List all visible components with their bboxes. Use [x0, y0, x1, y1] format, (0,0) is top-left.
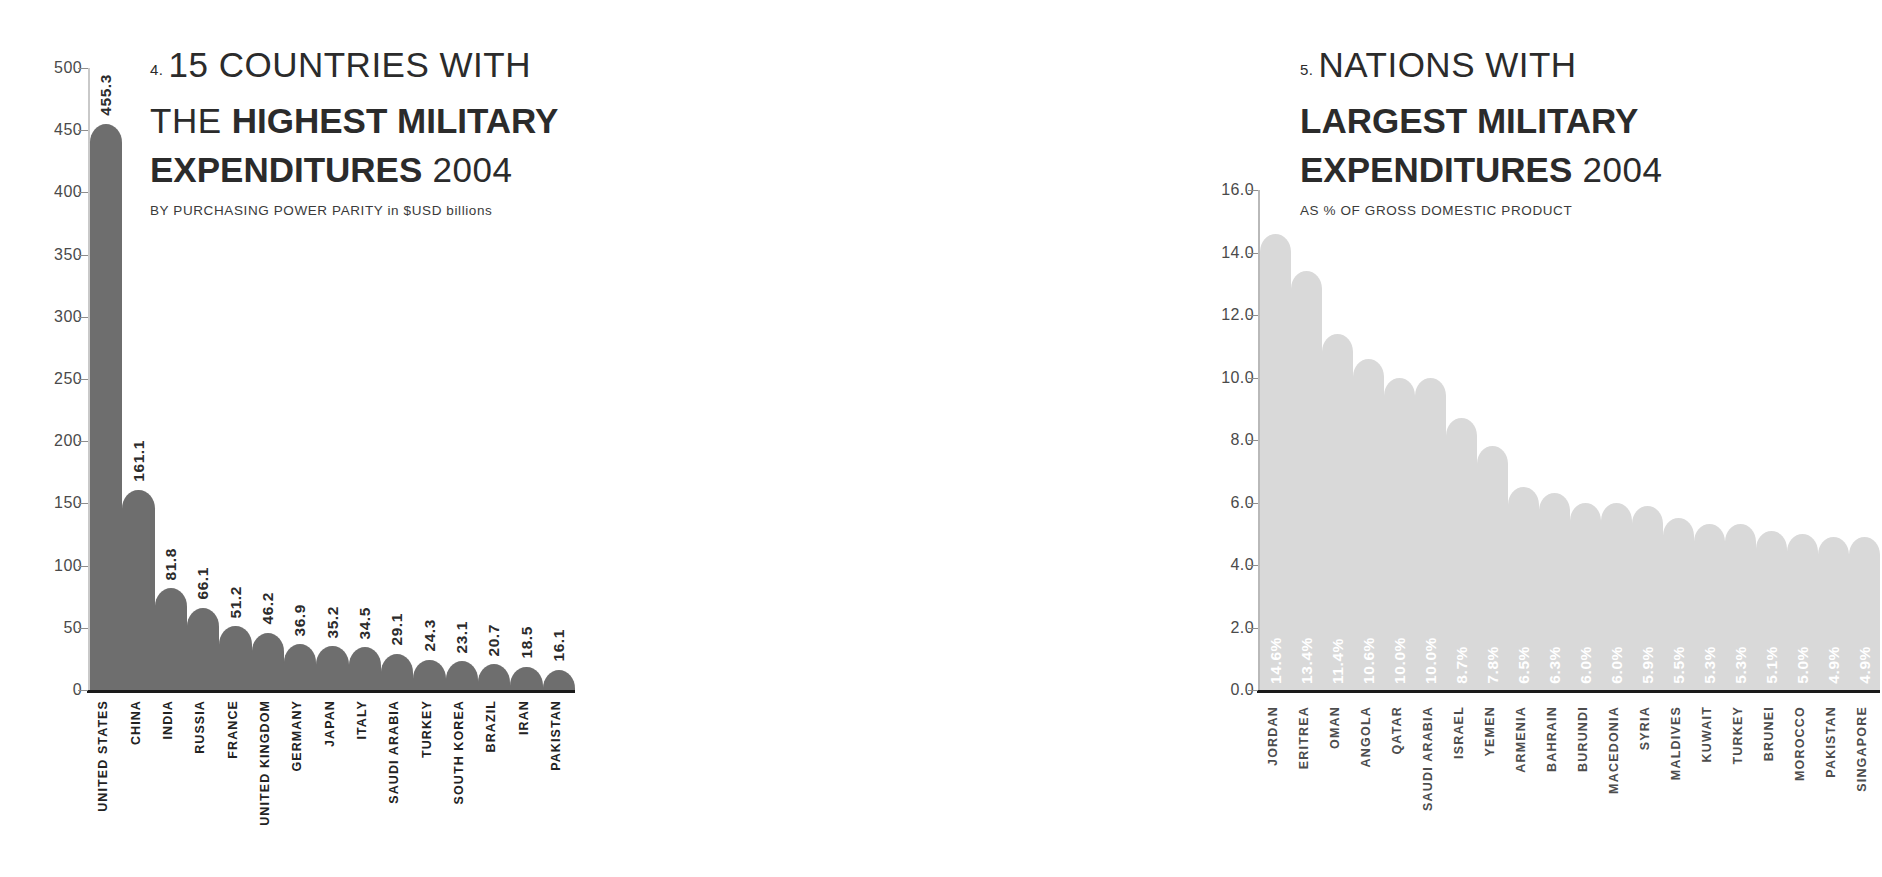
title-line-2: LARGEST MILITARY: [1300, 96, 1740, 145]
y-axis-tick: [78, 130, 88, 131]
y-axis-tick: [78, 317, 88, 318]
x-axis-category-label: TURKEY: [1732, 706, 1745, 765]
y-axis-tick: [78, 68, 88, 69]
plot-area-left: 455.3161.181.866.151.246.236.935.234.529…: [88, 68, 575, 690]
bar-value-label: 46.2: [260, 592, 276, 625]
bar-value-label: 81.8: [163, 548, 179, 581]
y-axis-tick: [78, 192, 88, 193]
bar-value-label: 24.3: [422, 619, 438, 652]
x-axis-category-label: ANGOLA: [1360, 706, 1373, 767]
bar-value-label: 20.7: [486, 624, 502, 657]
bar-value-label: 29.1: [389, 613, 405, 646]
bar-value-label: 5.3%: [1733, 646, 1749, 684]
y-axis-tick: [78, 255, 88, 256]
bar-value-label: 8.7%: [1454, 646, 1470, 684]
y-axis-tick: [1248, 440, 1258, 441]
x-axis-category-label: TURKEY: [421, 700, 434, 758]
bar: [187, 608, 219, 690]
bar: [478, 664, 510, 690]
title-line-1-text: NATIONS WITH: [1319, 45, 1577, 84]
y-axis-tick: [1248, 503, 1258, 504]
bar: [219, 626, 251, 690]
y-axis-tick: [1248, 315, 1258, 316]
y-axis-tick: [78, 379, 88, 380]
bar-value-label: 11.4%: [1330, 638, 1346, 684]
y-axis-tick: [1248, 628, 1258, 629]
chart-index-label: 5.: [1300, 61, 1319, 78]
bar-value-label: 4.9%: [1826, 646, 1842, 684]
title-line-3-bold: EXPENDITURES: [1300, 150, 1572, 189]
bar-value-label: 4.9%: [1857, 646, 1873, 684]
chart-panel-military-expenditures-ppp: 4.15 COUNTRIES WITH THE HIGHEST MILITARY…: [0, 0, 620, 877]
y-axis-tick: [78, 441, 88, 442]
bar-series-right: 14.6%13.4%11.4%10.6%10.0%10.0%8.7%7.8%6.…: [1260, 190, 1880, 690]
title-line-1: 5.NATIONS WITH: [1300, 40, 1740, 96]
bar-value-label: 66.1: [195, 567, 211, 600]
bar-series-left: 455.3161.181.866.151.246.236.935.234.529…: [90, 68, 575, 690]
bar: [349, 647, 381, 690]
x-axis-category-label: BRUNEI: [1763, 706, 1776, 761]
bar-value-label: 14.6%: [1268, 637, 1284, 684]
x-axis-category-label: YEMEN: [1484, 706, 1497, 756]
bar-value-label: 5.1%: [1764, 646, 1780, 684]
x-axis-category-label: UNITED KINGDOM: [259, 700, 272, 826]
x-axis-category-label: ITALY: [356, 700, 369, 740]
plot-area-right: 14.6%13.4%11.4%10.6%10.0%10.0%8.7%7.8%6.…: [1258, 190, 1880, 690]
title-line-3-year: 2004: [1572, 150, 1662, 189]
bar: [413, 660, 445, 690]
bar-value-label: 35.2: [325, 606, 341, 639]
bar-value-label: 18.5: [519, 626, 535, 659]
x-axis-category-label: FRANCE: [227, 700, 240, 759]
y-axis-tick: [1248, 378, 1258, 379]
bar: [252, 633, 284, 690]
x-axis-category-label: KUWAIT: [1701, 706, 1714, 763]
y-axis-tick: [1248, 690, 1258, 691]
bar: [510, 667, 542, 690]
x-axis-category-label: JORDAN: [1267, 706, 1280, 766]
x-axis-category-label: SOUTH KOREA: [453, 700, 466, 804]
bar: [381, 654, 413, 690]
y-axis-labels-left: 500450400350300250200150100500: [38, 68, 82, 690]
bar-value-label: 16.1: [551, 629, 567, 662]
bar-value-label: 10.6%: [1361, 637, 1377, 684]
y-axis-tick: [1248, 253, 1258, 254]
bar: [1322, 334, 1353, 690]
x-axis-category-label: PAKISTAN: [550, 700, 563, 771]
bar: [1291, 271, 1322, 690]
x-axis-category-label: RUSSIA: [194, 700, 207, 754]
bar-value-label: 13.4%: [1299, 637, 1315, 684]
x-axis-category-label: UNITED STATES: [97, 700, 110, 812]
y-axis-tick: [78, 566, 88, 567]
x-axis-category-label: SAUDI ARABIA: [1422, 706, 1435, 811]
bar-value-label: 7.8%: [1485, 646, 1501, 684]
x-axis-category-label: IRAN: [518, 700, 531, 735]
x-axis-category-label: GERMANY: [291, 700, 304, 772]
bar-value-label: 5.9%: [1640, 646, 1656, 684]
x-axis-category-label: PAKISTAN: [1825, 706, 1838, 778]
chart-panel-military-expenditures-gdp: 5.NATIONS WITH LARGEST MILITARY EXPENDIT…: [600, 0, 1342, 877]
bar: [155, 588, 187, 690]
x-axis-category-label: ISRAEL: [1453, 706, 1466, 759]
bar: [316, 646, 348, 690]
x-axis-category-label: MACEDONIA: [1608, 706, 1621, 794]
bar: [1260, 234, 1291, 690]
bar-value-label: 6.0%: [1609, 646, 1625, 684]
bar-value-label: 6.3%: [1547, 646, 1563, 684]
x-axis-category-label: ARMENIA: [1515, 706, 1528, 773]
x-axis-category-label: BAHRAIN: [1546, 706, 1559, 772]
x-axis-category-label: SYRIA: [1639, 706, 1652, 750]
x-axis-category-labels-left: UNITED STATESCHINAINDIARUSSIAFRANCEUNITE…: [88, 700, 577, 850]
x-axis-line-left: [87, 690, 575, 693]
bar-value-label: 5.3%: [1702, 646, 1718, 684]
bar-value-label: 34.5: [357, 607, 373, 640]
bar: [90, 124, 122, 690]
bar-value-label: 36.9: [292, 604, 308, 637]
bar-value-label: 23.1: [454, 621, 470, 654]
x-axis-category-label: BRAZIL: [485, 700, 498, 752]
bar: [122, 490, 154, 690]
y-axis-tick: [78, 690, 88, 691]
x-axis-line-right: [1257, 690, 1880, 693]
bar-value-label: 161.1: [131, 440, 147, 482]
bar: [284, 644, 316, 690]
x-axis-category-label: CHINA: [130, 700, 143, 745]
